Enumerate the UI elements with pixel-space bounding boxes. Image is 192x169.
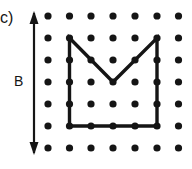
grid-dot	[109, 34, 116, 41]
grid-dot	[87, 12, 94, 19]
grid-dot	[66, 144, 73, 151]
figure-canvas	[0, 0, 192, 169]
grid-dot	[131, 100, 138, 107]
grid-dot	[66, 12, 73, 19]
grid-dot	[175, 100, 182, 107]
grid-dot	[44, 144, 51, 151]
geoboard-figure: c) B	[0, 0, 192, 169]
dimension-label: B	[14, 74, 23, 88]
height-dimension-arrow	[30, 11, 39, 155]
grid-dot	[87, 34, 94, 41]
grid-dot	[175, 122, 182, 129]
grid-dot	[109, 100, 116, 107]
grid-dot	[153, 144, 160, 151]
part-label: c)	[0, 10, 13, 26]
grid-dot	[131, 12, 138, 19]
grid-dot	[175, 144, 182, 151]
grid-dot	[109, 144, 116, 151]
grid-dot	[87, 78, 94, 85]
grid-dot	[44, 34, 51, 41]
grid-dot	[44, 122, 51, 129]
grid-dot	[175, 56, 182, 63]
grid-dot	[109, 12, 116, 19]
grid-dot	[87, 100, 94, 107]
grid-dot	[175, 78, 182, 85]
grid-dot	[131, 34, 138, 41]
grid-dot	[131, 78, 138, 85]
dimension-arrowhead-down	[30, 142, 39, 155]
dimension-arrowhead-up	[30, 11, 39, 24]
grid-dot	[44, 78, 51, 85]
grid-dot	[44, 56, 51, 63]
rubber-band-polygon	[70, 38, 158, 126]
grid-dot	[87, 144, 94, 151]
grid-dot	[131, 144, 138, 151]
grid-dot	[153, 12, 160, 19]
grid-dot	[44, 100, 51, 107]
grid-dot	[175, 12, 182, 19]
grid-dot	[109, 56, 116, 63]
grid-dot	[175, 34, 182, 41]
grid-dot	[44, 12, 51, 19]
